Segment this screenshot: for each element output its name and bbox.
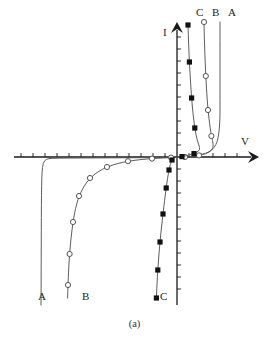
data-marker-B bbox=[209, 133, 214, 138]
data-marker-C bbox=[187, 59, 192, 64]
figure-caption: (a) bbox=[0, 318, 269, 329]
data-marker-C bbox=[169, 157, 174, 162]
data-marker-C bbox=[189, 95, 194, 100]
data-marker-C bbox=[192, 125, 197, 130]
data-marker-B bbox=[125, 159, 130, 164]
data-marker-C bbox=[164, 185, 169, 190]
x-axis-label: V bbox=[241, 135, 249, 147]
data-marker-C bbox=[179, 154, 184, 159]
curve-label-bottom-C: C bbox=[160, 290, 167, 302]
curve-line-A bbox=[41, 22, 220, 305]
data-marker-C bbox=[154, 295, 159, 300]
data-marker-B bbox=[201, 19, 206, 24]
data-marker-B bbox=[67, 251, 72, 256]
curve-A bbox=[41, 22, 220, 305]
data-marker-B bbox=[70, 219, 75, 224]
curve-label-bottom-B: B bbox=[82, 290, 89, 302]
curve-label-top-A: A bbox=[228, 6, 236, 18]
curve-line-C bbox=[156, 25, 199, 298]
data-marker-B bbox=[87, 175, 92, 180]
data-marker-B bbox=[205, 107, 210, 112]
data-marker-C bbox=[155, 267, 160, 272]
data-marker-B bbox=[104, 164, 109, 169]
curve-label-top-B: B bbox=[212, 6, 219, 18]
data-marker-C bbox=[166, 167, 171, 172]
y-axis-label: I bbox=[163, 26, 167, 38]
curve-label-top-C: C bbox=[196, 6, 203, 18]
iv-plot-svg: IVCBAABC bbox=[0, 0, 269, 346]
data-marker-C bbox=[157, 239, 162, 244]
data-marker-C bbox=[185, 22, 190, 27]
data-marker-B bbox=[196, 153, 201, 158]
data-marker-B bbox=[76, 193, 81, 198]
data-marker-C bbox=[160, 211, 165, 216]
data-marker-C bbox=[191, 151, 196, 156]
curve-label-bottom-A: A bbox=[38, 290, 46, 302]
data-marker-B bbox=[203, 73, 208, 78]
data-marker-B bbox=[149, 156, 154, 161]
data-marker-B bbox=[65, 282, 70, 287]
iv-characteristic-figure: IVCBAABC bbox=[0, 0, 269, 346]
